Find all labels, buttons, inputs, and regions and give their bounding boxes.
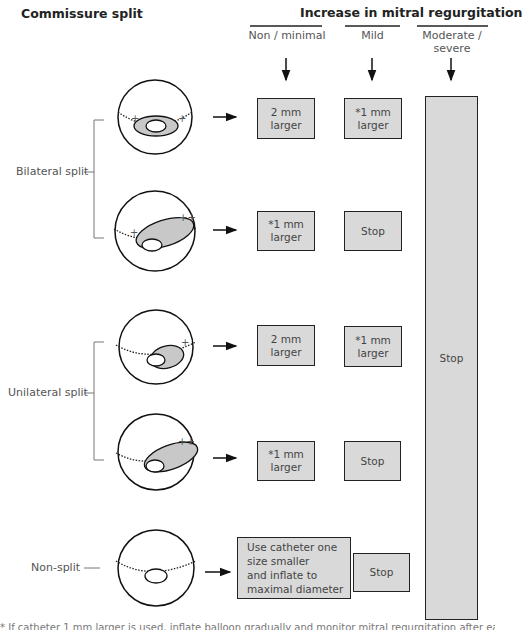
- box-text: size smaller: [247, 554, 309, 568]
- svg-text:+: +: [181, 337, 189, 348]
- down-arrow-icons: [286, 58, 451, 80]
- box-row5-mild: Stop: [353, 553, 410, 592]
- valve-unilateral-2-icon: ++: [116, 414, 201, 490]
- box-text: larger: [358, 347, 389, 360]
- unilateral-bracket: [84, 342, 104, 460]
- group-label-unilateral: Unilateral split: [8, 386, 88, 399]
- svg-text:+: +: [130, 227, 138, 238]
- box-text: 2 mm: [271, 333, 301, 346]
- box-text: maximal diameter: [247, 582, 343, 596]
- footnote: * If catheter 1 mm larger is used, infla…: [0, 621, 495, 630]
- box-row3-mild: *1 mm larger: [344, 326, 402, 367]
- box-row3-non-minimal: 2 mm larger: [257, 325, 315, 366]
- box-row2-non-minimal: *1 mm larger: [257, 211, 315, 251]
- box-text: Stop: [361, 455, 385, 468]
- column-label-mild: Mild: [345, 29, 400, 42]
- box-text: larger: [271, 231, 302, 244]
- svg-text:++: ++: [179, 212, 196, 223]
- box-text: 2 mm: [271, 106, 301, 119]
- box-text: larger: [271, 461, 302, 474]
- header-title: Increase in mitral regurgitation: [300, 5, 500, 20]
- box-text: Stop: [361, 225, 385, 238]
- box-text: *1 mm: [355, 334, 391, 347]
- valve-bilateral-1-icon: + +: [118, 80, 192, 154]
- box-moderate-severe: Stop: [425, 96, 478, 620]
- valve-unilateral-1-icon: +: [116, 310, 196, 384]
- box-text: larger: [271, 346, 302, 359]
- column-label-line: severe: [412, 42, 492, 55]
- box-text: *1 mm: [268, 218, 304, 231]
- box-text: *1 mm: [355, 106, 391, 119]
- bilateral-bracket: [84, 120, 104, 238]
- box-text: Use catheter one: [247, 540, 337, 554]
- column-label-moderate-severe: Moderate / severe: [412, 29, 492, 55]
- box-text: and inflate to: [247, 568, 317, 582]
- box-row4-non-minimal: *1 mm larger: [257, 441, 315, 481]
- column-label-non-minimal: Non / minimal: [244, 29, 330, 42]
- diagram-title: Commissure split: [21, 6, 143, 21]
- box-text: Stop: [440, 352, 464, 365]
- svg-text:++: ++: [178, 436, 195, 447]
- valve-nonsplit-icon: [116, 530, 196, 606]
- right-arrow-icons: [205, 117, 236, 572]
- svg-text:+: +: [178, 113, 186, 124]
- box-text: larger: [358, 119, 389, 132]
- box-row4-mild: Stop: [344, 441, 401, 481]
- group-label-bilateral: Bilateral split: [16, 165, 88, 178]
- svg-text:+: +: [131, 113, 139, 124]
- box-text: Stop: [370, 566, 394, 579]
- box-row5-non-minimal: Use catheter one size smaller and inflat…: [237, 537, 351, 599]
- valve-bilateral-2-icon: + ++: [114, 191, 198, 271]
- box-text: *1 mm: [268, 448, 304, 461]
- column-label-line: Moderate /: [412, 29, 492, 42]
- box-row1-mild: *1 mm larger: [344, 98, 402, 139]
- box-text: larger: [271, 119, 302, 132]
- box-row2-mild: Stop: [344, 211, 402, 251]
- box-row1-non-minimal: 2 mm larger: [257, 98, 315, 139]
- group-label-nonsplit: Non-split: [31, 561, 80, 574]
